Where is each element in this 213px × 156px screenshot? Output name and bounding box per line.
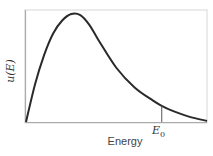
distribution-curve bbox=[26, 13, 207, 122]
x-axis-label: Energy bbox=[100, 135, 150, 147]
e0-label-sub: 0 bbox=[160, 130, 165, 139]
e0-label: E0 bbox=[152, 124, 165, 139]
y-axis-label: u(E) bbox=[0, 64, 25, 78]
e0-label-main: E bbox=[152, 124, 160, 137]
chart-svg bbox=[0, 0, 213, 156]
